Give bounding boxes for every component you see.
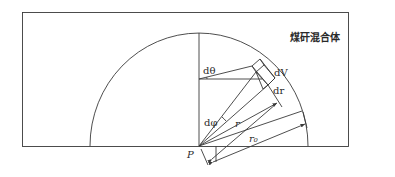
d-v-label: dV bbox=[274, 67, 288, 78]
dim-tick-p bbox=[201, 149, 208, 165]
r0-label: r₀ bbox=[249, 133, 258, 144]
region-label: 煤矸混合体 bbox=[290, 31, 341, 43]
point-p-label: P bbox=[186, 149, 194, 160]
d-phi-arc bbox=[222, 117, 226, 121]
r0-dimension-line bbox=[213, 124, 305, 162]
d-phi-label: dφ bbox=[204, 117, 217, 128]
r-dimension-line bbox=[212, 104, 276, 159]
ray-left bbox=[199, 72, 256, 146]
d-r-label: dr bbox=[273, 85, 284, 96]
hemisphere-volume-diagram: 煤矸混合体 dθ dV dr dφ r r₀ P bbox=[0, 0, 395, 177]
volume-element bbox=[252, 59, 275, 89]
d-theta-label: dθ bbox=[203, 65, 215, 76]
dim-tick-arc bbox=[303, 112, 307, 128]
